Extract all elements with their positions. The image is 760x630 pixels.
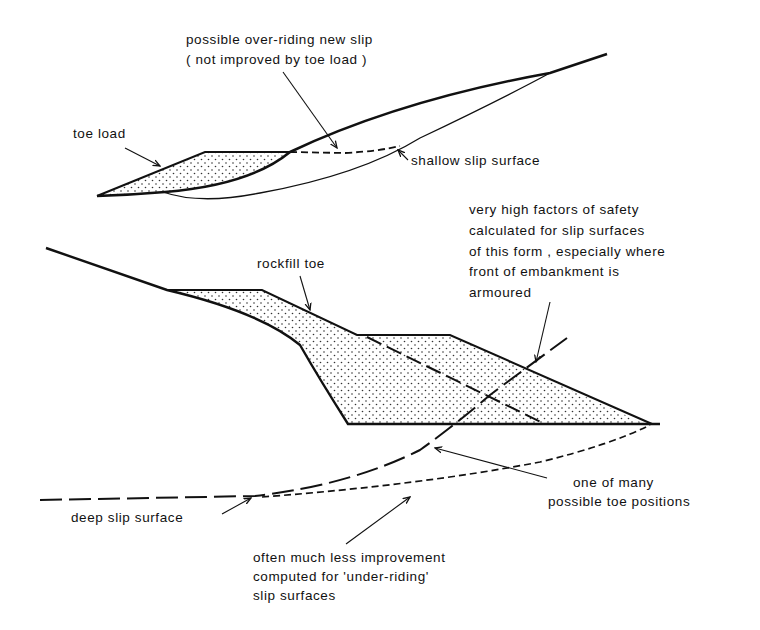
label-under-riding-3: slip surfaces xyxy=(253,588,336,603)
label-high-fos-4: front of embankment is xyxy=(469,264,620,279)
rockfill-toe-arrow xyxy=(300,276,310,310)
label-toe-positions-1: one of many xyxy=(573,475,654,490)
shallow-slip-arrow xyxy=(398,150,408,160)
high-fos-arrow xyxy=(536,302,550,362)
deep-slip-arrow xyxy=(222,498,251,514)
upper-diagram: possible over-riding new slip ( not impr… xyxy=(73,32,607,199)
lower-diagram: very high factors of safety calculated f… xyxy=(40,202,690,603)
label-shallow-slip: shallow slip surface xyxy=(411,153,540,168)
label-high-fos-5: armoured xyxy=(469,285,532,300)
label-rockfill-toe: rockfill toe xyxy=(257,256,325,271)
rockfill-toe-region xyxy=(167,290,645,424)
label-over-riding-2: ( not improved by toe load ) xyxy=(186,52,367,67)
label-high-fos-2: calculated for slip surfaces xyxy=(469,223,645,238)
label-high-fos-3: of this form , especially where xyxy=(469,244,665,259)
label-over-riding-1: possible over-riding new slip xyxy=(186,32,373,47)
label-toe-load: toe load xyxy=(73,126,126,141)
label-toe-positions-2: possible toe positions xyxy=(548,494,690,509)
over-riding-slip-line xyxy=(290,146,400,153)
diagram-svg: possible over-riding new slip ( not impr… xyxy=(0,0,760,630)
label-under-riding-1: often much less improvement xyxy=(253,550,446,565)
toe-load-arrow xyxy=(125,148,160,166)
diagram-canvas: possible over-riding new slip ( not impr… xyxy=(0,0,760,630)
over-riding-arrow xyxy=(283,72,337,148)
label-deep-slip: deep slip surface xyxy=(71,510,183,525)
under-riding-arrow xyxy=(346,497,410,544)
label-under-riding-2: computed for 'under-riding' xyxy=(253,569,429,584)
label-high-fos-1: very high factors of safety xyxy=(469,202,639,217)
